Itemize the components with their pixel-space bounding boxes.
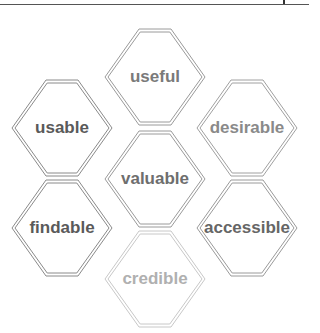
- hexagon-label-valuable: valuable: [121, 169, 189, 189]
- hexagon-label-credible: credible: [122, 269, 187, 289]
- hexagon-label-accessible: accessible: [204, 218, 290, 238]
- hexagon-label-usable: usable: [35, 118, 89, 138]
- hexagon-label-findable: findable: [29, 218, 94, 238]
- hexagon-label-desirable: desirable: [210, 118, 285, 138]
- hexagon-label-useful: useful: [130, 67, 180, 87]
